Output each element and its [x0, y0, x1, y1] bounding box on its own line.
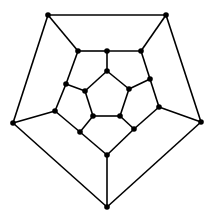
edge-o5-m9	[13, 111, 55, 123]
edge-o3-m5	[159, 107, 201, 122]
node-i1	[104, 68, 110, 74]
node-o1	[45, 12, 51, 18]
node-i2	[126, 86, 132, 92]
edge-m6-i3	[120, 116, 134, 129]
edge-m10-m1	[66, 51, 78, 84]
node-m3	[138, 48, 144, 54]
edge-m4-m5	[150, 79, 159, 107]
node-o4	[104, 204, 110, 210]
edge-m7-m8	[80, 132, 107, 155]
node-o5	[10, 120, 16, 126]
node-m1	[75, 48, 81, 54]
node-i4	[90, 113, 96, 119]
edge-m8-i4	[80, 116, 93, 132]
node-m5	[156, 104, 162, 110]
edge-i1-i2	[107, 71, 129, 89]
node-m8	[77, 129, 83, 135]
node-m4	[147, 76, 153, 82]
edge-m10-i5	[66, 84, 85, 91]
edge-i5-i1	[85, 71, 107, 91]
edge-o1-m1	[48, 15, 78, 51]
edge-o2-m3	[141, 15, 166, 51]
node-m2	[104, 48, 110, 54]
edge-m3-m4	[141, 51, 150, 79]
edge-m4-i2	[129, 79, 150, 89]
edge-o5-o1	[13, 15, 48, 123]
edge-i4-i5	[85, 91, 93, 116]
edge-m9-m10	[55, 84, 66, 111]
node-i3	[117, 113, 123, 119]
node-i5	[82, 88, 88, 94]
edge-i2-i3	[120, 89, 129, 116]
node-o3	[198, 119, 204, 125]
edge-m8-m9	[55, 111, 80, 132]
edge-m6-m7	[107, 129, 134, 155]
node-m9	[52, 108, 58, 114]
edge-o4-o5	[13, 123, 107, 207]
node-m7	[104, 152, 110, 158]
node-o2	[163, 12, 169, 18]
dodecahedron-graph	[0, 0, 215, 221]
edge-o3-o4	[107, 122, 201, 207]
edge-o2-o3	[166, 15, 201, 122]
edge-m5-m6	[134, 107, 159, 129]
node-m6	[131, 126, 137, 132]
node-m10	[63, 81, 69, 87]
graph-edges	[13, 15, 201, 207]
